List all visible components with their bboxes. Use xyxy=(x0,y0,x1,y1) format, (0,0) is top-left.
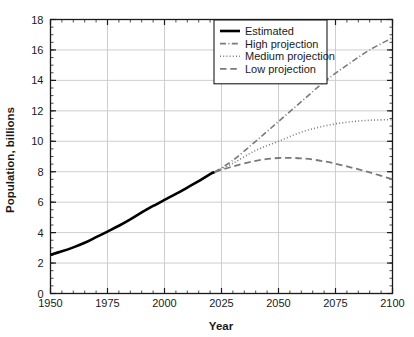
y-tick-label: 4 xyxy=(37,227,43,239)
y-tick-label: 2 xyxy=(37,257,43,269)
y-tick-label: 0 xyxy=(37,288,43,300)
x-tick-label: 2075 xyxy=(323,297,347,309)
y-axis-title: Population, billions xyxy=(4,107,16,213)
population-projection-chart: 1950197520002025205020752100 02468101214… xyxy=(0,0,414,337)
x-tick-label: 2025 xyxy=(209,297,233,309)
legend-label-high-projection: High projection xyxy=(245,38,318,50)
chart-legend: EstimatedHigh projectionMedium projectio… xyxy=(214,20,335,84)
y-tick-label: 12 xyxy=(31,105,43,117)
x-axis-title: Year xyxy=(209,320,234,332)
y-tick-label: 18 xyxy=(31,14,43,26)
y-tick-label: 8 xyxy=(37,166,43,178)
x-tick-label: 1975 xyxy=(95,297,119,309)
y-tick-label: 10 xyxy=(31,135,43,147)
y-tick-label: 14 xyxy=(31,74,43,86)
legend-label-low-projection: Low projection xyxy=(245,63,316,75)
chart-canvas: 1950197520002025205020752100 02468101214… xyxy=(0,0,414,337)
x-tick-label: 2100 xyxy=(380,297,404,309)
legend-label-medium-projection: Medium projection xyxy=(245,50,335,62)
x-tick-label: 2000 xyxy=(152,297,176,309)
x-tick-label: 2050 xyxy=(266,297,290,309)
y-tick-label: 6 xyxy=(37,196,43,208)
legend-label-estimated: Estimated xyxy=(245,25,294,37)
y-tick-label: 16 xyxy=(31,44,43,56)
